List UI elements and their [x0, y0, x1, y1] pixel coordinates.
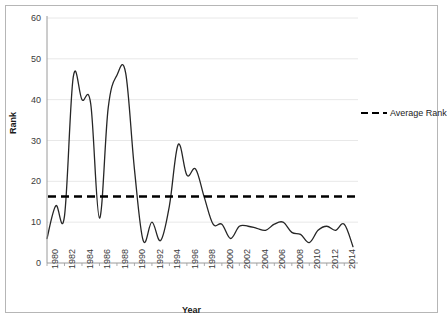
x-axis-tick-label: 2002	[243, 249, 252, 269]
y-axis-tick-label: 50	[19, 54, 41, 64]
x-axis-tick-label: 1988	[121, 249, 130, 269]
legend-item-average-rank: Average Rank	[390, 108, 447, 118]
x-axis-tick-label: 1990	[138, 249, 147, 269]
x-axis-tick-label: 2006	[278, 249, 287, 269]
y-axis-tick-label: 30	[19, 136, 41, 146]
x-axis-tick-label: 2014	[348, 249, 357, 269]
x-axis-tick-label: 2012	[331, 249, 340, 269]
x-axis-tick-label: 1996	[191, 249, 200, 269]
chart-legend: Average Rank	[361, 108, 447, 118]
chart-frame: Rank Year Average Rank 01020304050601980…	[5, 5, 438, 313]
legend-dashed-line-icon	[361, 108, 387, 118]
x-axis-tick-label: 1998	[208, 249, 217, 269]
x-axis-tick-label: 2010	[313, 249, 322, 269]
x-axis-tick-label: 2004	[261, 249, 270, 269]
x-axis-tick-label: 1984	[86, 249, 95, 269]
x-axis-tick-label: 1994	[173, 249, 182, 269]
y-axis-tick-label: 40	[19, 95, 41, 105]
y-axis-tick-label: 0	[19, 258, 41, 268]
y-axis-tick-label: 10	[19, 217, 41, 227]
x-axis-tick-label: 1982	[68, 249, 77, 269]
x-axis-tick-label: 2008	[296, 249, 305, 269]
y-axis-tick-label: 60	[19, 13, 41, 23]
x-axis-tick-label: 1980	[51, 249, 60, 269]
x-axis-tick-label: 2000	[226, 249, 235, 269]
x-axis-tick-label: 1986	[103, 249, 112, 269]
x-axis-tick-label: 1992	[156, 249, 165, 269]
y-axis-tick-label: 20	[19, 176, 41, 186]
